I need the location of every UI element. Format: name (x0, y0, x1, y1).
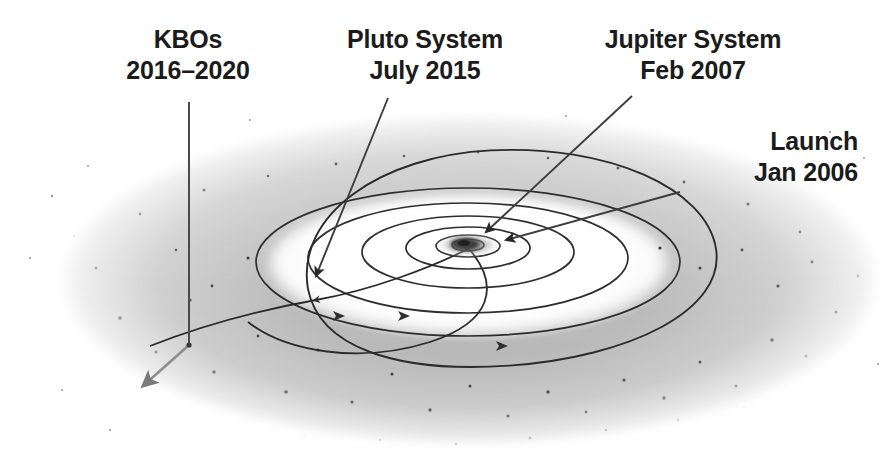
annotation-launch-line1: Launch (636, 126, 858, 157)
annotation-kbos-line1: KBOs (68, 24, 308, 55)
annotation-jupiter-line1: Jupiter System (568, 24, 818, 55)
annotation-pluto-line1: Pluto System (300, 24, 550, 55)
annotation-launch: Launch Jan 2006 (636, 126, 858, 187)
sun (434, 232, 502, 258)
annotation-launch-line2: Jan 2006 (636, 157, 858, 188)
figure-root: KBOs 2016–2020 Pluto System July 2015 Ju… (0, 0, 896, 460)
annotation-kbos-line2: 2016–2020 (68, 55, 308, 86)
annotation-pluto-line2: July 2015 (300, 55, 550, 86)
annotation-pluto-system: Pluto System July 2015 (300, 24, 550, 85)
annotation-kbos: KBOs 2016–2020 (68, 24, 308, 85)
annotation-jupiter-system: Jupiter System Feb 2007 (568, 24, 818, 85)
annotation-jupiter-line2: Feb 2007 (568, 55, 818, 86)
